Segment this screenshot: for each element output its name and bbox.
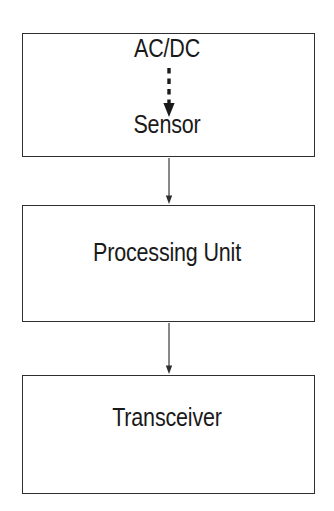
arrowhead-icon [166, 366, 172, 375]
block-diagram: AC/DC Sensor Processing Unit Transceiver [0, 0, 334, 511]
transceiver-label: Transceiver [23, 405, 310, 430]
transceiver-block[interactable] [22, 375, 315, 494]
